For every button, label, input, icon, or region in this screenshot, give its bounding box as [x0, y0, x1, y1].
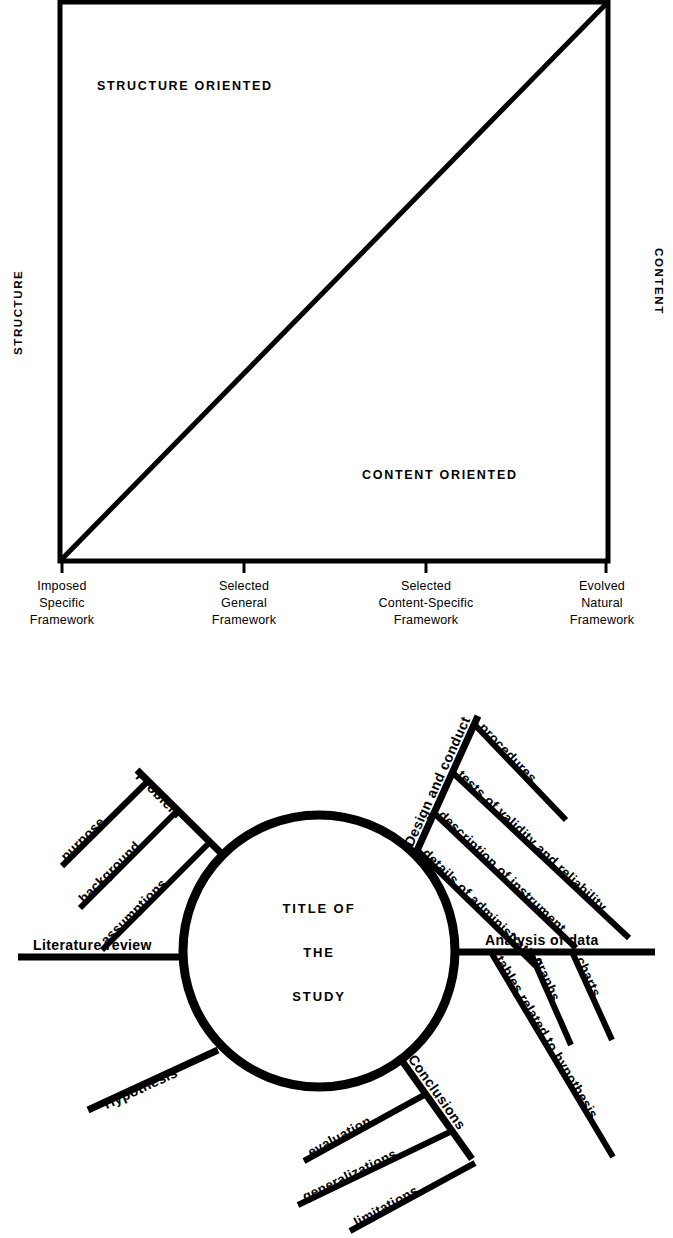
twig-label-limitations: limitations [351, 1183, 420, 1230]
twig-label-graphs: graphs [531, 955, 564, 1004]
structure-content-matrix-figure: STRUCTURE CONTENT STRUCTURE ORIENTED CON… [0, 0, 673, 660]
spoke-conclusions: Conclusions evaluation generalizations l… [298, 1051, 476, 1231]
x-axis-tick-label-2: Selected General Framework [212, 579, 277, 627]
spoke-analysis-of-data: Analysis of data tables related to hypot… [452, 932, 655, 1157]
tick-label-line: Framework [394, 613, 459, 627]
spoke-label-conclusions: Conclusions [405, 1051, 469, 1132]
spoke-label-conclusions-text: Conclusions [405, 1051, 469, 1132]
wheel-svg: TITLE OF THE STUDY Problem purpose [0, 660, 673, 1238]
y-axis-label-structure: STRUCTURE [12, 270, 24, 355]
center-caption-line: THE [303, 945, 335, 960]
tick-label-line: Framework [212, 613, 277, 627]
spoke-problem: Problem purpose background assumptions [58, 769, 223, 950]
spoke-literature-review: Literature review [18, 937, 183, 957]
tick-label-line: Natural [581, 596, 623, 610]
tick-label-line: General [221, 596, 267, 610]
twig-label-limitations-text: limitations [351, 1183, 420, 1230]
spoke-label-hypothesis: Hypothesis [101, 1064, 180, 1112]
y-axis-label-content: CONTENT [653, 248, 665, 315]
twig-label-purpose-text: purpose [58, 814, 108, 864]
tick-label-line: Framework [570, 613, 635, 627]
x-axis-tick-label-3: Selected Content-Specific Framework [379, 579, 474, 627]
x-axis-tick-label-1: Imposed Specific Framework [30, 579, 95, 627]
twig-label-background: background [76, 839, 143, 906]
twig-label-charts: charts [573, 955, 604, 1000]
x-axis-tick-label-4: Evolved Natural Framework [570, 579, 635, 627]
center-caption-line: STUDY [292, 989, 346, 1004]
twig-label-purpose: purpose [58, 814, 108, 864]
tick-label-line: Content-Specific [379, 596, 474, 610]
twig-label-evaluation-text: evaluation [305, 1113, 373, 1160]
figure-page: STRUCTURE CONTENT STRUCTURE ORIENTED CON… [0, 0, 673, 1238]
tick-label-line: Specific [39, 596, 84, 610]
center-caption-line: TITLE OF [283, 901, 356, 916]
tick-label-line: Evolved [579, 579, 625, 593]
twig-label-graphs-text: graphs [531, 955, 564, 1004]
center-caption: TITLE OF THE STUDY [283, 901, 356, 1004]
tick-label-line: Selected [219, 579, 269, 593]
study-wheel-figure: TITLE OF THE STUDY Problem purpose [0, 660, 673, 1238]
matrix-svg: STRUCTURE CONTENT STRUCTURE ORIENTED CON… [0, 0, 673, 660]
tick-label-line: Framework [30, 613, 95, 627]
spoke-hypothesis: Hypothesis [88, 1050, 222, 1116]
spoke-label-literature-review: Literature review [33, 937, 152, 953]
twig-label-background-text: background [76, 839, 143, 906]
quadrant-label-structure-oriented: STRUCTURE ORIENTED [97, 79, 273, 93]
twig-label-procedures-text: procedures [476, 720, 540, 786]
twig-label-charts-text: charts [573, 955, 604, 1000]
twig-label-evaluation: evaluation [305, 1113, 373, 1160]
spoke-label-hypothesis-text: Hypothesis [101, 1064, 180, 1112]
tick-label-line: Selected [401, 579, 451, 593]
tick-label-line: Imposed [37, 579, 86, 593]
spoke-label-analysis-of-data: Analysis of data [485, 932, 599, 948]
spoke-line-conclusions [400, 1058, 472, 1159]
twig-label-procedures: procedures [476, 720, 540, 786]
quadrant-label-content-oriented: CONTENT ORIENTED [362, 468, 518, 482]
